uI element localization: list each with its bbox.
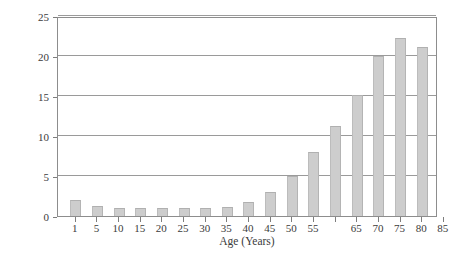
x-tick-label: 35 <box>221 223 232 234</box>
x-axis-title: Age (Years) <box>57 235 437 247</box>
bar <box>265 192 276 216</box>
bar <box>308 152 319 216</box>
plot-area <box>57 17 437 217</box>
x-tick-label: 20 <box>156 223 167 234</box>
x-tick-label: 70 <box>372 223 383 234</box>
bar <box>417 47 428 216</box>
x-tick-mark <box>335 217 336 222</box>
x-tick-label: 50 <box>286 223 297 234</box>
x-tick-label: 25 <box>178 223 189 234</box>
x-tick-label: 30 <box>199 223 210 234</box>
bar <box>70 200 81 216</box>
bar <box>222 207 233 216</box>
gridline <box>58 15 436 16</box>
y-tick-label: 5 <box>44 171 54 182</box>
y-tick-label: 15 <box>38 91 53 102</box>
y-tick-label: 0 <box>44 211 54 222</box>
x-tick-label: 15 <box>134 223 145 234</box>
bars-layer <box>58 18 436 216</box>
x-tick-label: 85 <box>437 223 448 234</box>
bar <box>352 95 363 216</box>
x-tick-label: 5 <box>94 223 100 234</box>
bar <box>92 206 103 216</box>
x-tick-label: 45 <box>264 223 275 234</box>
bar <box>395 38 406 216</box>
bar <box>287 176 298 216</box>
x-tick-label: 55 <box>307 223 318 234</box>
bar <box>114 208 125 216</box>
x-tick-label: 10 <box>113 223 124 234</box>
x-tick-label: 75 <box>394 223 405 234</box>
bar <box>243 202 254 216</box>
x-tick-label: 65 <box>351 223 362 234</box>
x-tick-label: 1 <box>72 223 78 234</box>
bar <box>135 208 146 216</box>
y-tick-label: 25 <box>38 11 53 22</box>
y-tick-label: 10 <box>38 131 53 142</box>
y-tick-label: 20 <box>38 51 53 62</box>
bar <box>157 208 168 216</box>
bar <box>330 126 341 216</box>
x-tick-label: 40 <box>242 223 253 234</box>
y-axis-ticks: 0510152025 <box>0 17 57 217</box>
bar-chart-figure: Rate per 100,000 0510152025 151015202530… <box>0 0 462 270</box>
bar <box>200 208 211 216</box>
x-tick-label: 80 <box>416 223 427 234</box>
bar <box>373 56 384 216</box>
bar <box>179 208 190 216</box>
